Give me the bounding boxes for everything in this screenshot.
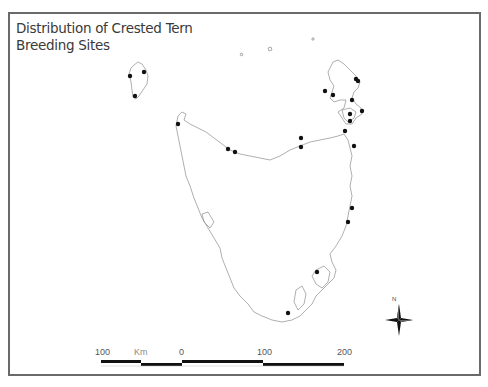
scale-label-100-left: 100 [95,347,110,357]
breeding-site-marker [356,79,360,83]
flinders-island-outline [328,60,362,124]
breeding-site-marker [350,206,354,210]
breeding-site-marker [233,150,237,154]
tasmania-map [0,0,488,387]
breeding-site-marker [348,112,352,116]
scale-label-200: 200 [337,347,352,357]
breeding-site-marker [286,311,290,315]
breeding-site-marker [323,89,327,93]
scale-unit-label: Km [134,347,148,357]
breeding-site-marker [331,93,335,97]
north-label: N [392,296,396,302]
scale-label-0: 0 [179,347,184,357]
breeding-site-marker [133,94,137,98]
breeding-site-marker [176,122,180,126]
breeding-site-marker [350,98,354,102]
breeding-site-marker [226,147,230,151]
scale-bar [101,360,344,366]
breeding-site-marker [142,70,146,74]
breeding-site-marker [346,220,350,224]
breeding-site-marker [352,144,356,148]
king-island-outline [129,62,148,99]
breeding-site-marker [299,136,303,140]
breeding-site-marker [299,145,303,149]
breeding-site-marker [343,129,347,133]
breeding-site-marker [360,109,364,113]
bruny-island-outline [294,286,306,310]
coastline [129,38,362,322]
breeding-site-marker [315,270,319,274]
breeding-site-marker [348,119,352,123]
compass-star-icon [385,304,413,336]
scale-label-100: 100 [257,347,272,357]
macquarie-harbour-outline [202,212,214,228]
breeding-site-marker [128,74,132,78]
